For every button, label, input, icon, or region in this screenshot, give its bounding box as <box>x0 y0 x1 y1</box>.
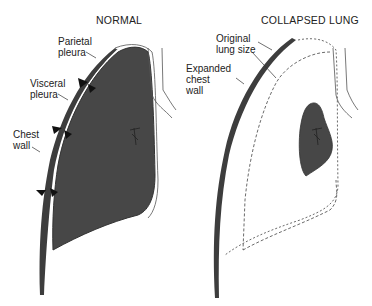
diagram-canvas <box>0 0 372 306</box>
collapsed-title: COLLAPSED LUNG <box>261 14 359 26</box>
collapsed-trachea <box>333 48 358 118</box>
collapsed-lung <box>299 103 332 176</box>
label-parietal-pleura: Parietal pleura <box>58 36 92 58</box>
label-visceral-pleura: Visceral pleura <box>30 78 65 100</box>
normal-title: NORMAL <box>96 14 142 26</box>
label-original-lung-size: Original lung size <box>216 33 255 55</box>
label-chest-wall: Chest wall <box>13 129 39 151</box>
normal-lung <box>53 47 155 250</box>
label-expanded-chest-wall: Expanded chest wall <box>186 63 231 96</box>
collapsed-panel <box>214 38 358 298</box>
